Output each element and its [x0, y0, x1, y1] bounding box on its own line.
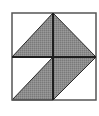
- geometric-figure: [0, 0, 99, 116]
- diagram-canvas: [0, 0, 99, 116]
